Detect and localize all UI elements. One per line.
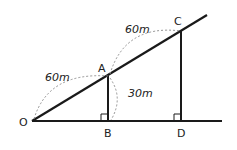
label-c: C	[174, 15, 182, 28]
diagram-svg: O A B C D 60m 60m 30m	[0, 0, 237, 150]
geometry-diagram: O A B C D 60m 60m 30m	[0, 0, 237, 150]
label-b: B	[104, 127, 112, 140]
arc-ab	[110, 78, 117, 120]
label-o: O	[19, 116, 28, 129]
measure-ac: 60m	[125, 23, 150, 36]
measure-oa: 60m	[45, 71, 70, 84]
label-a: A	[98, 62, 106, 75]
measure-ab: 30m	[128, 87, 153, 100]
label-d: D	[177, 127, 185, 140]
